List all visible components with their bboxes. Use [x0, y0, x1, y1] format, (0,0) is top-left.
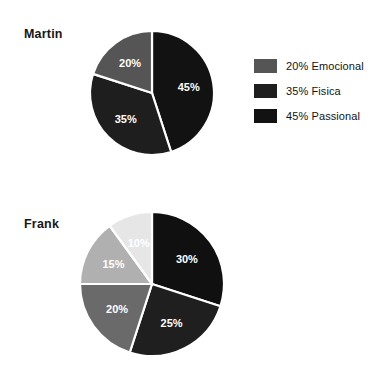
legend-martin: 20% Emocional35% Fisica45% Passional — [254, 58, 364, 123]
pie-slice-label: 10% — [128, 237, 150, 249]
legend-item-label: 45% Passional — [286, 110, 360, 122]
legend-item: 20% Emocional — [254, 58, 364, 73]
legend-color-swatch — [254, 109, 277, 123]
pie-slice-label: 35% — [115, 113, 137, 125]
legend-color-swatch — [254, 59, 277, 73]
legend-item-label: 20% Emocional — [286, 60, 364, 72]
pie-slice-label: 15% — [102, 258, 124, 270]
pie-slice-label: 25% — [161, 317, 183, 329]
pie-slice-label: 20% — [119, 57, 141, 69]
pie-chart-martin: Martin 45%35%20% 20% Emocional35% Fisica… — [0, 0, 383, 190]
legend-item-label: 35% Fisica — [286, 85, 341, 97]
pie-slice-label: 20% — [106, 303, 128, 315]
pie-slice-label: 30% — [176, 253, 198, 265]
legend-item: 45% Passional — [254, 108, 364, 123]
legend-color-swatch — [254, 84, 277, 98]
pie-chart-frank: Frank 30%25%20%15%10% 10% Intelectual15%… — [0, 190, 383, 379]
pie-graphic-frank: 30%25%20%15%10% — [0, 190, 383, 379]
pie-slice-label: 45% — [178, 81, 200, 93]
legend-item: 35% Fisica — [254, 83, 364, 98]
